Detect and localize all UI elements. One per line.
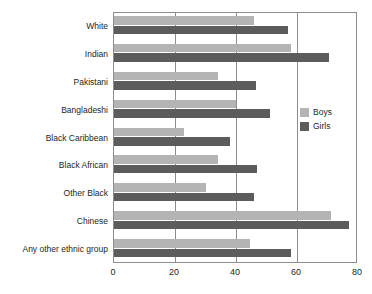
y-axis-label-2: Pakistani xyxy=(0,77,108,87)
bar-girls xyxy=(114,193,254,202)
bar-girls xyxy=(114,249,291,258)
x-axis-tick-20: 20 xyxy=(169,266,179,278)
y-axis-label-5: Black African xyxy=(0,160,108,170)
y-axis-label-8: Any other ethnic group xyxy=(0,244,108,254)
bar-girls xyxy=(114,221,349,230)
bar-rows xyxy=(114,13,356,262)
legend: BoysGirls xyxy=(300,106,352,134)
x-axis-tick-0: 0 xyxy=(110,266,115,278)
y-axis-label-4: Black Caribbean xyxy=(0,133,108,143)
bar-girls xyxy=(114,53,329,62)
legend-swatch-icon-boys xyxy=(300,108,309,117)
y-axis-label-6: Other Black xyxy=(0,188,108,198)
legend-label: Girls xyxy=(313,121,330,131)
bar-boys xyxy=(114,239,250,248)
y-axis-label-1: Indian xyxy=(0,49,108,59)
bar-boys xyxy=(114,128,184,137)
legend-item-girls: Girls xyxy=(300,120,352,132)
legend-label: Boys xyxy=(313,107,332,117)
bar-group xyxy=(114,69,356,97)
bar-boys xyxy=(114,100,236,109)
bar-group xyxy=(114,152,356,180)
legend-item-boys: Boys xyxy=(300,106,352,118)
bar-group xyxy=(114,41,356,69)
x-axis-tick-labels: 020406080 xyxy=(0,266,372,282)
x-axis-tick-80: 80 xyxy=(352,266,362,278)
plot-area xyxy=(113,12,357,263)
y-axis-label-3: Bangladeshi xyxy=(0,105,108,115)
bar-boys xyxy=(114,183,206,192)
y-axis-label-0: White xyxy=(0,21,108,31)
bar-boys xyxy=(114,211,331,220)
bar-group xyxy=(114,13,356,41)
y-axis-category-labels: WhiteIndianPakistaniBangladeshiBlack Car… xyxy=(0,12,108,263)
x-axis-tick-60: 60 xyxy=(291,266,301,278)
legend-swatch-icon-girls xyxy=(300,122,309,131)
bar-girls xyxy=(114,137,230,146)
bar-boys xyxy=(114,72,218,81)
bar-group xyxy=(114,208,356,236)
bar-group xyxy=(114,236,356,264)
x-axis-tick-40: 40 xyxy=(230,266,240,278)
bar-girls xyxy=(114,81,256,90)
bar-boys xyxy=(114,16,254,25)
bar-girls xyxy=(114,26,288,35)
bar-girls xyxy=(114,109,270,118)
y-axis-label-7: Chinese xyxy=(0,216,108,226)
bar-girls xyxy=(114,165,257,174)
bar-group xyxy=(114,180,356,208)
bar-chart: WhiteIndianPakistaniBangladeshiBlack Car… xyxy=(0,0,372,294)
bar-boys xyxy=(114,44,291,53)
bar-boys xyxy=(114,155,218,164)
